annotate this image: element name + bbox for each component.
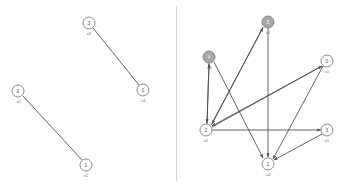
- node-3-label: x1: [325, 138, 330, 143]
- node-0[interactable]: 0 -x1: [137, 84, 149, 103]
- node-1-label: -x2: [265, 172, 272, 177]
- node-0-label: -x1: [140, 98, 147, 103]
- edge-2-4: [207, 64, 209, 124]
- node-2-id: 2: [17, 88, 20, 94]
- graph-comparison-figure: 3 x2 0 -x1 2 -x2 1 x1: [0, 0, 344, 187]
- node-3[interactable]: 3 x2: [83, 17, 95, 36]
- node-5[interactable]: 5 x1: [262, 16, 274, 35]
- node-5-id: 5: [267, 19, 270, 25]
- node-0-id: 0: [326, 58, 329, 64]
- node-4[interactable]: 4 -x1: [203, 51, 215, 70]
- right-graph-edges: [207, 27, 323, 160]
- node-3-id: 3: [326, 127, 329, 133]
- node-2[interactable]: 2 x2: [200, 124, 212, 143]
- node-0-id: 0: [142, 87, 145, 93]
- node-2-id: 2: [205, 127, 208, 133]
- node-5-label: x1: [266, 30, 271, 35]
- node-1-label: x1: [84, 173, 89, 178]
- edge-2-5: [211, 28, 263, 125]
- node-2-label: -x2: [15, 99, 22, 104]
- node-3[interactable]: 3 x1: [321, 124, 333, 143]
- node-2[interactable]: 2 -x2: [12, 85, 24, 104]
- edge-4-1: [214, 62, 263, 158]
- node-0-label: x1: [325, 69, 330, 74]
- right-graph-canvas: 5 x1 4 -x1 0 x1 2 x2: [177, 0, 344, 187]
- node-3-label: x2: [87, 31, 92, 36]
- edge-0-1: [273, 66, 323, 159]
- left-graph-edges: [23, 28, 139, 160]
- left-graph-nodes: 3 x2 0 -x1 2 -x2 1 x1: [12, 17, 149, 178]
- node-3-id: 3: [88, 20, 91, 26]
- edge-3-0: [93, 28, 139, 85]
- node-1-id: 1: [267, 161, 270, 167]
- edge-2-0: [212, 66, 322, 127]
- node-1[interactable]: 1 x1: [80, 159, 92, 178]
- node-1-id: 1: [85, 162, 88, 168]
- edge-2-1: [23, 96, 82, 160]
- edge-3-1: [274, 134, 322, 160]
- node-1[interactable]: 1 -x2: [262, 158, 274, 177]
- node-4-label: -x1: [206, 65, 213, 70]
- right-graph-panel: 5 x1 4 -x1 0 x1 2 x2: [177, 0, 344, 187]
- node-0[interactable]: 0 x1: [321, 55, 333, 74]
- left-graph-canvas: 3 x2 0 -x1 2 -x2 1 x1: [0, 0, 176, 187]
- node-2-label: x2: [204, 138, 209, 143]
- left-graph-panel: 3 x2 0 -x1 2 -x2 1 x1: [0, 0, 176, 187]
- node-4-id: 4: [208, 54, 211, 60]
